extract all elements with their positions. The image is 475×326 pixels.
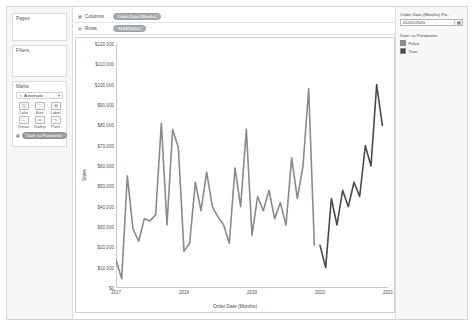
marks-button-path[interactable]: ∿ Path <box>48 116 63 129</box>
marks-button-grid: ◫ Color ⬚ Size ▤ Label ∴ Detail ▭ Tool <box>16 102 63 129</box>
y-tick-label: $70,000 <box>97 143 114 148</box>
y-tick-label: $90,000 <box>97 103 114 108</box>
marks-card[interactable]: Marks ∿ Automatic ▾ ◫ Color ⬚ Size ▤ Lab… <box>12 81 67 147</box>
x-tick-label: 2017 <box>111 290 121 295</box>
y-tick-label: $30,000 <box>97 225 114 230</box>
grid-columns-icon: ▦ <box>78 14 82 19</box>
parameter-card[interactable]: Order Date (Months) Pa... 01/01/2020 ▦ <box>400 12 463 26</box>
legend-label-false: False <box>409 41 420 46</box>
marks-button-detail[interactable]: ∴ Detail <box>16 116 31 129</box>
y-tick-label: $50,000 <box>97 184 114 189</box>
marks-color-pill[interactable]: Date >= Parameter <box>22 132 68 139</box>
x-tick-label: 2021 <box>383 290 393 295</box>
detail-icon: ∴ <box>19 116 29 124</box>
left-shelf-column: Pages Filters Marks ∿ Automatic ▾ ◫ Colo… <box>7 7 73 319</box>
y-axis-ticks: $0$10,000$20,000$30,000$40,000$50,000$60… <box>84 44 114 288</box>
y-tick-label: $60,000 <box>97 164 114 169</box>
x-axis-ticks: 20172018201920202021 <box>116 290 388 298</box>
x-tick-label: 2020 <box>315 290 325 295</box>
rows-shelf[interactable]: ▤ Rows SUM(Sales) <box>75 23 395 35</box>
marks-button-path-label: Path <box>51 124 59 129</box>
marks-button-size-label: Size <box>36 110 44 115</box>
chart-line-false <box>116 89 314 279</box>
mark-type-dropdown[interactable]: ∿ Automatic ▾ <box>16 92 63 99</box>
filters-label: Filters <box>13 46 66 53</box>
color-legend-title: Date >= Parameter <box>400 33 463 38</box>
columns-drop-target[interactable]: Order Date (Months) <box>109 13 395 20</box>
marks-button-size[interactable]: ⬚ Size <box>32 102 47 115</box>
y-tick-label: $20,000 <box>97 245 114 250</box>
marks-button-label[interactable]: ▤ Label <box>48 102 63 115</box>
y-tick-label: $100,000 <box>95 82 114 87</box>
parameter-card-title: Order Date (Months) Pa... <box>400 12 463 17</box>
rows-drop-target[interactable]: SUM(Sales) <box>109 25 395 32</box>
size-icon: ⬚ <box>35 102 45 110</box>
chart-svg <box>116 44 388 288</box>
legend-item-false[interactable]: False <box>400 40 463 46</box>
chart-line-true <box>320 85 382 268</box>
right-cards-column: Order Date (Months) Pa... 01/01/2020 ▦ D… <box>395 7 467 319</box>
marks-button-tooltip[interactable]: ▭ Tooltip <box>32 116 47 129</box>
mark-type-value: Automatic <box>24 93 58 98</box>
tableau-worksheet: Pages Filters Marks ∿ Automatic ▾ ◫ Colo… <box>6 6 468 320</box>
calendar-icon[interactable]: ▦ <box>454 20 462 26</box>
marks-label: Marks <box>13 82 66 89</box>
y-tick-label: $80,000 <box>97 123 114 128</box>
chevron-down-icon[interactable]: ▾ <box>58 93 60 98</box>
rows-label: Rows <box>85 26 109 31</box>
pages-shelf[interactable]: Pages <box>12 13 67 41</box>
legend-item-true[interactable]: True <box>400 48 463 54</box>
pages-label: Pages <box>13 14 66 21</box>
color-icon: ◫ <box>19 102 29 110</box>
label-icon: ▤ <box>51 102 61 110</box>
legend-swatch-true <box>400 48 406 54</box>
legend-swatch-false <box>400 40 406 46</box>
y-tick-label: $120,000 <box>95 42 114 47</box>
tooltip-icon: ▭ <box>35 116 45 124</box>
color-legend-card[interactable]: Date >= Parameter False True <box>400 33 463 54</box>
plot-area[interactable] <box>116 44 388 288</box>
y-tick-label: $40,000 <box>97 204 114 209</box>
path-icon: ∿ <box>51 116 61 124</box>
columns-shelf[interactable]: ▦ Columns Order Date (Months) <box>75 11 395 23</box>
y-tick-label: $10,000 <box>97 265 114 270</box>
marks-button-color[interactable]: ◫ Color <box>16 102 31 115</box>
parameter-date-input[interactable]: 01/01/2020 ▦ <box>400 19 463 27</box>
x-axis-title: Order Date (Months) <box>76 304 394 309</box>
x-tick-label: 2018 <box>179 290 189 295</box>
marks-button-tooltip-label: Tooltip <box>34 124 46 129</box>
marks-color-encoding-row: ▩ Date >= Parameter <box>16 131 63 139</box>
grid-rows-icon: ▤ <box>78 26 82 31</box>
line-mark-icon: ∿ <box>19 93 22 98</box>
color-swatch-icon: ▩ <box>16 133 20 138</box>
marks-button-detail-label: Detail <box>18 124 28 129</box>
viz-canvas[interactable]: Sales $0$10,000$20,000$30,000$40,000$50,… <box>75 37 395 313</box>
parameter-date-value: 01/01/2020 <box>401 20 454 25</box>
legend-label-true: True <box>409 49 418 54</box>
rows-pill-sum-sales[interactable]: SUM(Sales) <box>113 25 146 32</box>
columns-label: Columns <box>85 14 109 19</box>
filters-shelf[interactable]: Filters <box>12 45 67 77</box>
marks-button-color-label: Color <box>19 110 29 115</box>
marks-button-label-label: Label <box>50 110 60 115</box>
columns-pill-order-date[interactable]: Order Date (Months) <box>113 13 161 20</box>
y-tick-label: $110,000 <box>95 62 114 67</box>
x-tick-label: 2019 <box>247 290 257 295</box>
line-chart: Sales $0$10,000$20,000$30,000$40,000$50,… <box>76 38 394 312</box>
